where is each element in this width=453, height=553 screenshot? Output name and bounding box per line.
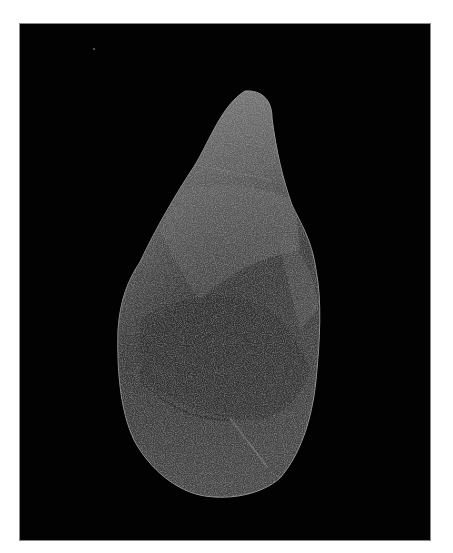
stone-texture bbox=[100, 80, 340, 510]
hand-axe-image bbox=[0, 0, 453, 553]
photograph bbox=[20, 24, 430, 540]
stone-body bbox=[0, 0, 453, 553]
dust-speck bbox=[93, 48, 95, 50]
